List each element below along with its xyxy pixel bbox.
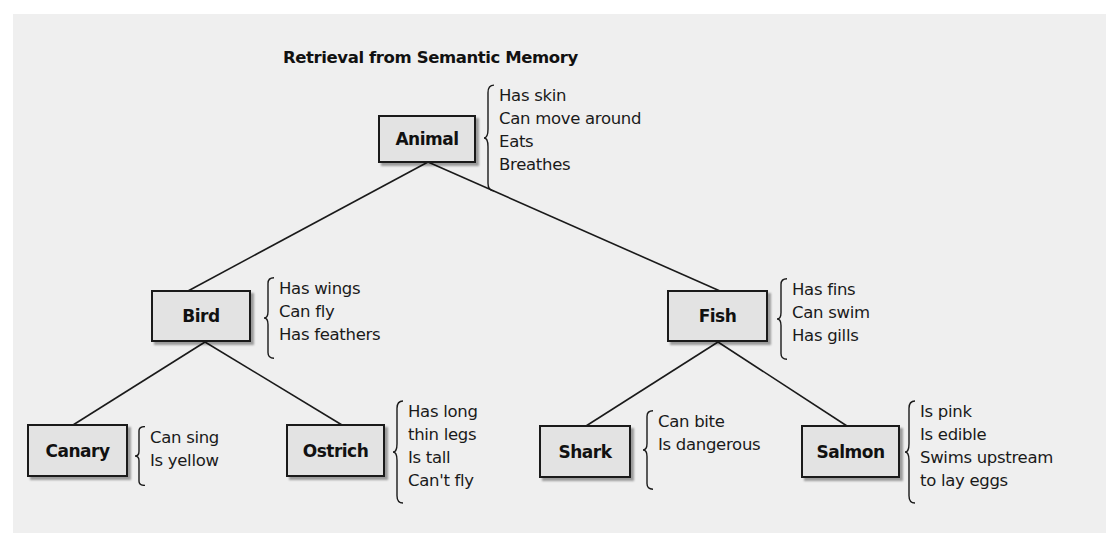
properties-ostrich: Has long thin legs Is tall Can't fly xyxy=(392,400,478,504)
property-item: Has long xyxy=(408,400,478,423)
node-ostrich: Ostrich xyxy=(286,424,385,477)
property-item: Can move around xyxy=(499,107,641,130)
property-item: Is pink xyxy=(920,400,1053,423)
properties-shark: Can bite Is dangerous xyxy=(642,410,760,490)
node-bird: Bird xyxy=(151,290,251,342)
property-item: Eats xyxy=(499,130,641,153)
property-item: Has fins xyxy=(792,278,870,301)
property-item: Can swim xyxy=(792,301,870,324)
property-item: Has wings xyxy=(279,277,380,300)
property-item: Can sing xyxy=(150,426,219,449)
property-item: Can fly xyxy=(279,300,380,323)
property-item: Can bite xyxy=(658,410,760,433)
curly-brace-icon xyxy=(263,277,275,359)
property-item: Has feathers xyxy=(279,323,380,346)
properties-bird: Has wings Can fly Has feathers xyxy=(263,277,380,359)
property-item: Is yellow xyxy=(150,449,219,472)
property-item: Swims upstream xyxy=(920,446,1053,469)
edge-bird-canary xyxy=(73,342,205,425)
node-salmon: Salmon xyxy=(801,425,900,478)
property-item: Has skin xyxy=(499,84,641,107)
property-item: Has gills xyxy=(792,324,870,347)
node-shark: Shark xyxy=(539,425,631,478)
node-label: Bird xyxy=(182,306,219,326)
edge-animal-bird xyxy=(188,162,428,291)
property-item: Can't fly xyxy=(408,469,478,492)
node-label: Salmon xyxy=(816,442,884,462)
properties-fish: Has fins Can swim Has gills xyxy=(776,278,870,360)
node-canary: Canary xyxy=(27,424,128,477)
curly-brace-icon xyxy=(134,426,146,486)
properties-animal: Has skin Can move around Eats Breathes xyxy=(483,84,641,192)
curly-brace-icon xyxy=(904,400,916,504)
properties-canary: Can sing Is yellow xyxy=(134,426,219,486)
curly-brace-icon xyxy=(483,84,495,192)
property-item: to lay eggs xyxy=(920,469,1053,492)
node-label: Fish xyxy=(699,306,737,326)
property-item: Is tall xyxy=(408,446,478,469)
node-label: Shark xyxy=(558,442,611,462)
node-label: Ostrich xyxy=(303,441,369,461)
node-fish: Fish xyxy=(667,290,768,342)
curly-brace-icon xyxy=(642,410,654,490)
node-label: Canary xyxy=(46,441,110,461)
property-item: thin legs xyxy=(408,423,478,446)
curly-brace-icon xyxy=(776,278,788,360)
properties-salmon: Is pink Is edible Swims upstream to lay … xyxy=(904,400,1053,504)
property-item: Is dangerous xyxy=(658,433,760,456)
property-item: Breathes xyxy=(499,153,641,176)
property-item: Is edible xyxy=(920,423,1053,446)
curly-brace-icon xyxy=(392,400,404,504)
node-animal: Animal xyxy=(378,115,476,163)
node-label: Animal xyxy=(395,129,458,149)
